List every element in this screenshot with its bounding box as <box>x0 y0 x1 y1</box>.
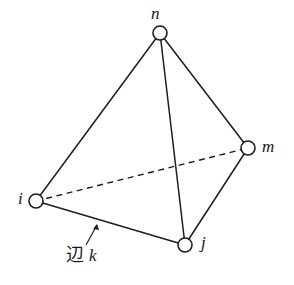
edge-n-j <box>160 33 185 245</box>
node-label-i: i <box>18 190 23 207</box>
tetrahedron-figure: n m i j 辺k <box>0 0 294 285</box>
edge-i-m-hidden <box>36 148 248 201</box>
annotation-edge-id: k <box>84 246 97 265</box>
node-j-marker <box>178 238 192 252</box>
edge-n-i <box>36 33 160 201</box>
node-label-m: m <box>262 138 274 155</box>
edge-n-m <box>160 33 248 148</box>
edge-i-j <box>36 201 185 245</box>
edge-group <box>36 33 248 245</box>
figure-canvas <box>0 0 294 285</box>
node-i-marker <box>29 194 43 208</box>
leader-arrowhead-icon <box>93 224 99 230</box>
node-label-j: j <box>201 234 206 251</box>
edge-j-m <box>185 148 248 245</box>
node-n-marker <box>153 26 167 40</box>
node-m-marker <box>241 141 255 155</box>
node-group <box>29 26 255 252</box>
annotation-leader <box>86 224 99 245</box>
node-label-n: n <box>151 5 160 22</box>
annotation-edge-word: 辺 <box>66 244 84 265</box>
annotation-edge-k: 辺k <box>66 246 97 264</box>
